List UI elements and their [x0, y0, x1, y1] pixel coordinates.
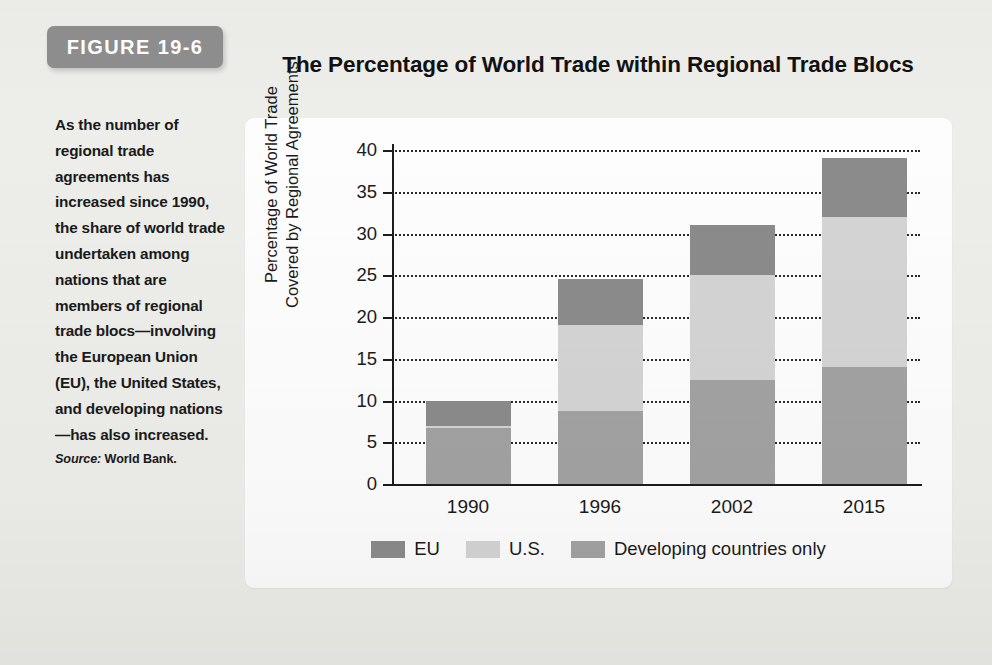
figure-page: FIGURE 19-6 The Percentage of World Trad…	[0, 0, 992, 665]
bar-segment-eu	[426, 401, 511, 426]
bar-segment-us	[690, 275, 775, 379]
chart-title: The Percentage of World Trade within Reg…	[228, 52, 968, 78]
legend-label-eu: EU	[414, 538, 440, 560]
bar-segment-us	[558, 325, 643, 411]
x-axis-label-1990: 1990	[426, 496, 511, 518]
legend-label-developing: Developing countries only	[614, 538, 826, 560]
bar-segment-developing	[690, 380, 775, 484]
y-axis-line	[392, 144, 394, 484]
y-axis-tick-label: 15	[356, 348, 377, 370]
y-axis-tick	[383, 192, 394, 194]
y-axis-title-line-2: Covered by Regional Agreements	[282, 61, 303, 308]
plot-area: 0510152025303540 1990199620022015	[392, 150, 920, 484]
y-axis-tick-label: 40	[356, 139, 377, 161]
y-axis-tick	[383, 234, 394, 236]
x-axis-label-2015: 2015	[822, 496, 907, 518]
bar-2002	[690, 225, 775, 484]
figure-caption: As the number of regional trade agreemen…	[55, 112, 227, 447]
y-axis-tick-label: 30	[356, 223, 377, 245]
chart-legend: EUU.S.Developing countries only	[245, 538, 952, 560]
legend-item-us: U.S.	[466, 538, 545, 560]
y-axis-tick-label: 25	[356, 264, 377, 286]
legend-label-us: U.S.	[509, 538, 545, 560]
x-axis-label-2002: 2002	[690, 496, 775, 518]
legend-swatch-developing	[571, 541, 605, 558]
bar-segment-eu	[822, 158, 907, 216]
y-axis-tick-label: 20	[356, 306, 377, 328]
bar-segment-eu	[558, 279, 643, 325]
bar-segment-eu	[690, 225, 775, 275]
source-value: World Bank.	[105, 452, 177, 466]
y-axis-tick-label: 5	[367, 431, 377, 453]
legend-swatch-eu	[371, 541, 405, 558]
bar-2015	[822, 158, 907, 484]
legend-item-developing: Developing countries only	[571, 538, 826, 560]
source-line: Source: World Bank.	[55, 452, 227, 466]
y-axis-title-line-1: Percentage of World Trade	[261, 61, 282, 308]
y-axis-tick	[383, 359, 394, 361]
source-label: Source:	[55, 452, 101, 466]
bar-segment-developing	[558, 411, 643, 484]
gridline	[392, 150, 920, 152]
y-axis-tick-label: 10	[356, 390, 377, 412]
figure-number-label: FIGURE 19-6	[67, 36, 204, 59]
bar-1996	[558, 279, 643, 484]
y-axis-tick	[383, 401, 394, 403]
bar-segment-developing	[426, 428, 511, 484]
caption-column: As the number of regional trade agreemen…	[55, 112, 227, 466]
y-axis-title: Percentage of World Trade Covered by Reg…	[261, 61, 303, 308]
legend-item-eu: EU	[371, 538, 440, 560]
y-axis-tick	[383, 484, 394, 486]
y-axis-tick	[383, 275, 394, 277]
y-axis-tick	[383, 442, 394, 444]
y-axis-tick	[383, 317, 394, 319]
y-axis-tick-label: 0	[367, 473, 377, 495]
y-axis-tick	[383, 150, 394, 152]
bar-segment-developing	[822, 367, 907, 484]
bar-segment-us	[822, 217, 907, 367]
y-axis-tick-label: 35	[356, 181, 377, 203]
figure-number-badge: FIGURE 19-6	[47, 26, 223, 68]
legend-swatch-us	[466, 541, 500, 558]
bar-1990	[426, 401, 511, 484]
x-axis-label-1996: 1996	[558, 496, 643, 518]
chart-panel: Percentage of World Trade Covered by Reg…	[245, 118, 952, 588]
x-axis-line	[392, 484, 922, 486]
